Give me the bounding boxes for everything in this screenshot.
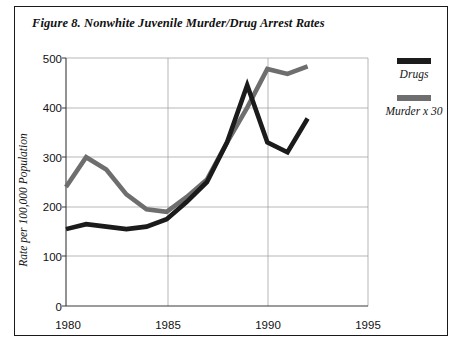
x-tick-1990: 1990 [243,319,293,331]
data-line-murder [66,66,308,211]
y-tick-0: 0 [28,301,62,313]
x-tick-1985: 1985 [143,319,193,331]
y-axis-ticks [62,58,66,306]
y-axis-tick-labels: 500 400 300 200 100 0 [28,0,62,350]
y-tick-500: 500 [28,53,62,65]
legend-swatch-murder [397,95,431,101]
legend-label-murder: Murder x 30 [372,105,456,117]
y-tick-300: 300 [28,152,62,164]
y-tick-400: 400 [28,102,62,114]
legend-entry-drugs: Drugs [372,58,456,80]
x-tick-1995: 1995 [343,319,393,331]
x-tick-1980: 1980 [43,319,93,331]
grid-lines [66,58,368,306]
line-chart-canvas [0,0,461,350]
legend-entry-murder: Murder x 30 [372,95,456,117]
chart-plot-area: Rate per 100,000 Population 500 400 300 … [0,0,461,350]
chart-legend: Drugs Murder x 30 [372,58,456,132]
axis-spines [66,58,368,306]
y-tick-100: 100 [28,251,62,263]
legend-label-drugs: Drugs [372,68,456,80]
legend-swatch-drugs [397,58,431,64]
y-tick-200: 200 [28,201,62,213]
